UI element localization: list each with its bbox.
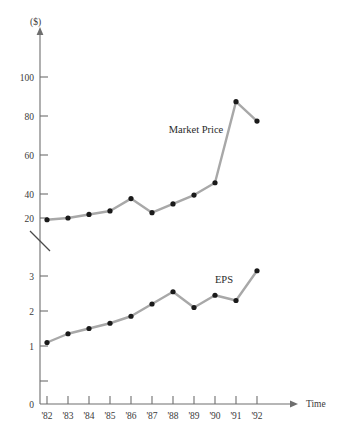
market-price-series-label: Market Price (169, 124, 224, 135)
data-point (191, 192, 196, 197)
svg-text:40: 40 (25, 190, 35, 200)
x-axis-tick-label: '82 (41, 411, 52, 421)
data-point (254, 118, 259, 123)
chart-container: ($) Time 100 80 60 40 20 (0, 0, 352, 437)
svg-text:1: 1 (29, 342, 34, 352)
x-axis-tick-label: '92 (251, 411, 262, 421)
x-axis-tick-label: '83 (62, 411, 73, 421)
x-axis-tick-label: '86 (125, 411, 136, 421)
x-axis-tick-label: '89 (188, 411, 199, 421)
data-point (86, 212, 91, 217)
svg-text:60: 60 (25, 151, 35, 161)
financial-line-chart: ($) Time 100 80 60 40 20 (0, 0, 352, 437)
data-point (128, 314, 133, 319)
data-point (212, 180, 217, 185)
svg-text:100: 100 (20, 73, 35, 83)
x-axis-tick-label: '90 (209, 411, 220, 421)
data-point (44, 340, 49, 345)
data-point (107, 208, 112, 213)
data-point (65, 331, 70, 336)
eps-series-label: EPS (215, 274, 233, 285)
data-point (149, 210, 154, 215)
x-axis-tick-label: '87 (146, 411, 157, 421)
data-point (212, 293, 217, 298)
x-axis-title: Time (306, 399, 326, 409)
data-point (128, 196, 133, 201)
x-axis-tick-label: '85 (104, 411, 115, 421)
svg-text:2: 2 (29, 307, 34, 317)
x-axis-tick-label: '91 (230, 411, 241, 421)
svg-text:3: 3 (29, 272, 34, 282)
data-point (191, 305, 196, 310)
data-point (149, 301, 154, 306)
svg-text:80: 80 (25, 112, 35, 122)
data-point (254, 268, 259, 273)
data-point (233, 99, 238, 104)
y-axis-unit-label: ($) (30, 17, 41, 28)
svg-text:20: 20 (25, 214, 35, 224)
x-axis-tick-label: '88 (167, 411, 178, 421)
data-point (170, 289, 175, 294)
svg-text:0: 0 (29, 400, 34, 410)
data-point (170, 201, 175, 206)
data-point (86, 326, 91, 331)
data-point (65, 215, 70, 220)
data-point (107, 321, 112, 326)
data-point (44, 217, 49, 222)
data-point (233, 298, 238, 303)
x-axis-tick-label: '84 (83, 411, 94, 421)
